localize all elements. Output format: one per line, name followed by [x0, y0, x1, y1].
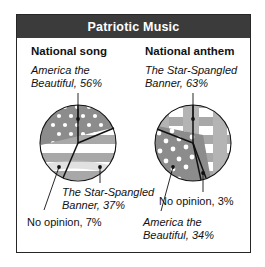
label-line: Beautiful, 56% [31, 77, 102, 90]
label-line: The Star-Spangled [145, 64, 237, 77]
label-line: No opinion, 3% [159, 195, 234, 208]
column-heading-national-anthem: National anthem [145, 45, 234, 57]
column-heading-national-song: National song [31, 45, 107, 57]
label-right-star-spangled-banner: The Star-Spangled Banner, 63% [145, 64, 237, 90]
label-right-no-opinion: No opinion, 3% [159, 195, 234, 208]
label-left-america-the-beautiful: America the Beautiful, 56% [31, 64, 102, 90]
figure-frame: Patriotic Music National song National a… [16, 14, 251, 253]
page-title: Patriotic Music [88, 20, 180, 34]
label-left-star-spangled-banner: The Star-Spangled Banner, 37% [62, 186, 154, 212]
pie-outline-left [40, 105, 116, 181]
label-right-america-the-beautiful: America the Beautiful, 34% [143, 216, 214, 242]
leader-dot [171, 165, 175, 169]
pie-outline-right [155, 105, 231, 181]
leader-dot [57, 165, 61, 169]
leader-dot [98, 165, 102, 169]
label-line: The Star-Spangled [62, 186, 154, 199]
pie-slice-divider [193, 143, 201, 180]
leader-dot [201, 171, 205, 175]
label-line: Beautiful, 34% [143, 229, 214, 242]
label-left-no-opinion: No opinion, 7% [27, 216, 102, 229]
label-line: Banner, 37% [62, 199, 154, 212]
leader-dot [76, 117, 80, 121]
pie-slice-divider [63, 143, 78, 178]
patriotic-music-figure: Patriotic Music National song National a… [0, 0, 265, 267]
label-line: Banner, 63% [145, 77, 237, 90]
label-line: America the [143, 216, 214, 229]
leader-dot [191, 117, 195, 121]
label-line: No opinion, 7% [27, 216, 102, 229]
pie-slice-divider [193, 143, 206, 178]
leader-line [44, 167, 59, 210]
figure-title-bar: Patriotic Music [17, 15, 250, 38]
pie-slice-divider [78, 128, 114, 143]
label-line: America the [31, 64, 102, 77]
pie-slice-divider [157, 129, 193, 143]
